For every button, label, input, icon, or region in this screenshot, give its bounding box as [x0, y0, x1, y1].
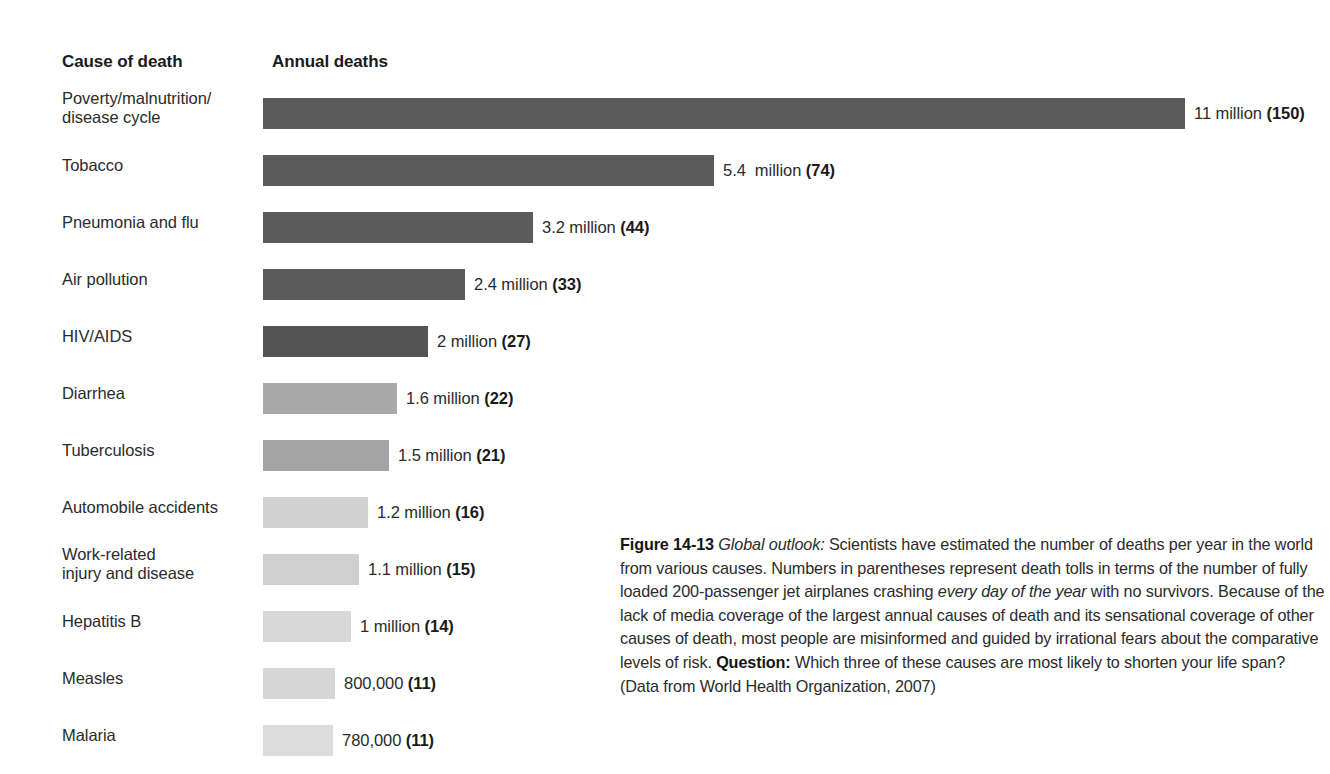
bar-value-jet-equivalent: (150) [1267, 104, 1305, 122]
bar-value-number: 3.2 million [542, 218, 620, 236]
bar-value-number: 780,000 [342, 731, 406, 749]
row-label: Diarrhea [62, 384, 258, 403]
row-label: Tobacco [62, 156, 258, 175]
chart-row: Tuberculosis1.5 million (21) [0, 430, 1330, 487]
bar-value-number: 800,000 [344, 674, 408, 692]
bar-value-label: 3.2 million (44) [542, 218, 649, 237]
figure-number: Figure 14-13 [620, 535, 714, 553]
bar-value-label: 2 million (27) [437, 332, 531, 351]
bar [263, 497, 368, 528]
bar-value-jet-equivalent: (11) [408, 674, 436, 692]
chart-row: Air pollution2.4 million (33) [0, 259, 1330, 316]
bar-value-number: 1.2 million [377, 503, 455, 521]
bar-and-value: 3.2 million (44) [263, 212, 649, 243]
chart-row: Poverty/malnutrition/ disease cycle11 mi… [0, 88, 1330, 145]
bar [263, 98, 1185, 129]
bar-and-value: 1.5 million (21) [263, 440, 505, 471]
bar-value-jet-equivalent: (74) [806, 161, 835, 179]
bar-value-label: 1.6 million (22) [406, 389, 513, 408]
column-header-cause-of-death: Cause of death [62, 52, 182, 72]
bar-value-jet-equivalent: (27) [502, 332, 531, 350]
column-header-annual-deaths: Annual deaths [272, 52, 388, 72]
bar-value-label: 5.4 million (74) [723, 161, 835, 180]
bar-value-number: 1.1 million [368, 560, 446, 578]
bar-value-jet-equivalent: (15) [446, 560, 475, 578]
chart-row: Malaria780,000 (11) [0, 715, 1330, 772]
row-label: Hepatitis B [62, 612, 258, 631]
bar [263, 383, 397, 414]
chart-row: Diarrhea1.6 million (22) [0, 373, 1330, 430]
row-label: Tuberculosis [62, 441, 258, 460]
bar-value-label: 1 million (14) [360, 617, 454, 636]
row-label: Measles [62, 669, 258, 688]
bar-and-value: 2 million (27) [263, 326, 531, 357]
caption-lead-italic: Global outlook: [718, 535, 824, 553]
bar [263, 611, 351, 642]
bar-value-label: 1.5 million (21) [398, 446, 505, 465]
caption-italic-1: every day of the year [938, 582, 1087, 600]
bar-value-label: 1.1 million (15) [368, 560, 475, 579]
bar-value-label: 780,000 (11) [342, 731, 434, 750]
bar-value-label: 800,000 (11) [344, 674, 436, 693]
bar-value-jet-equivalent: (33) [552, 275, 581, 293]
bar [263, 554, 359, 585]
bar-and-value: 5.4 million (74) [263, 155, 835, 186]
chart-row: Pneumonia and flu3.2 million (44) [0, 202, 1330, 259]
bar-value-jet-equivalent: (16) [455, 503, 484, 521]
bar-and-value: 1.6 million (22) [263, 383, 513, 414]
bar-value-number: 1.6 million [406, 389, 484, 407]
bar-value-number: 2.4 million [474, 275, 552, 293]
figure-caption: Figure 14-13 Global outlook: Scientists … [620, 533, 1326, 698]
bar [263, 269, 465, 300]
bar-value-jet-equivalent: (44) [620, 218, 649, 236]
row-label: Poverty/malnutrition/ disease cycle [62, 89, 258, 127]
bar-value-jet-equivalent: (14) [425, 617, 454, 635]
bar-and-value: 1.2 million (16) [263, 497, 484, 528]
bar [263, 155, 714, 186]
bar [263, 326, 428, 357]
bar-value-number: 1 million [360, 617, 425, 635]
bar [263, 725, 333, 756]
bar-value-number: 5.4 million [723, 161, 806, 179]
bar-and-value: 2.4 million (33) [263, 269, 581, 300]
bar-and-value: 800,000 (11) [263, 668, 436, 699]
bar-and-value: 1.1 million (15) [263, 554, 475, 585]
row-label: Malaria [62, 726, 258, 745]
bar-and-value: 11 million (150) [263, 98, 1305, 129]
chart-row: HIV/AIDS2 million (27) [0, 316, 1330, 373]
bar [263, 212, 533, 243]
bar-value-jet-equivalent: (21) [476, 446, 505, 464]
bar-value-jet-equivalent: (22) [484, 389, 513, 407]
bar-value-label: 11 million (150) [1194, 104, 1305, 123]
caption-question-label: Question: [716, 653, 790, 671]
bar-and-value: 780,000 (11) [263, 725, 434, 756]
row-label: Automobile accidents [62, 498, 258, 517]
bar-value-label: 2.4 million (33) [474, 275, 581, 294]
bar-value-number: 11 million [1194, 104, 1267, 122]
row-label: Pneumonia and flu [62, 213, 258, 232]
bar-value-number: 1.5 million [398, 446, 476, 464]
bar-value-label: 1.2 million (16) [377, 503, 484, 522]
row-label: Air pollution [62, 270, 258, 289]
bar-and-value: 1 million (14) [263, 611, 454, 642]
bar [263, 440, 389, 471]
row-label: HIV/AIDS [62, 327, 258, 346]
bar-value-number: 2 million [437, 332, 502, 350]
row-label: Work-related injury and disease [62, 545, 258, 583]
bar [263, 668, 335, 699]
bar-value-jet-equivalent: (11) [406, 731, 434, 749]
chart-row: Tobacco5.4 million (74) [0, 145, 1330, 202]
